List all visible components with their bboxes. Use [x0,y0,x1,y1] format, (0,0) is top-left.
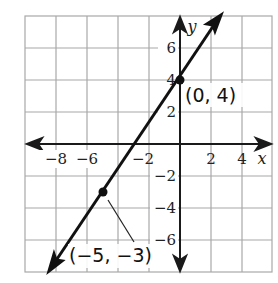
coordinate-plane: −8 −6 −2 2 4 x 6 4 2 −2 −4 −6 y (0, 4) (… [0,0,278,283]
x-tick: −8 [45,150,67,168]
arrow-upright-icon [207,15,221,31]
point-label-neg5-neg3: (−5, −3) [69,244,152,266]
point-neg5-neg3 [99,188,108,197]
y-axis-label: y [186,17,197,36]
point-label-0-4: (0, 4) [185,84,236,106]
y-tick: 6 [166,39,176,57]
y-tick: −4 [154,199,176,217]
x-tick: −2 [132,150,154,168]
x-tick: −6 [76,150,98,168]
y-tick: 2 [166,103,176,121]
x-tick: 2 [206,150,216,168]
x-tick-labels: −8 −6 −2 2 4 x [36,149,267,168]
y-tick-labels: 6 4 2 −2 −4 −6 y [150,17,197,249]
y-tick: −2 [154,167,176,185]
x-axis-label: x [257,149,266,168]
leader-line [108,200,134,242]
x-tick: 4 [237,150,247,168]
